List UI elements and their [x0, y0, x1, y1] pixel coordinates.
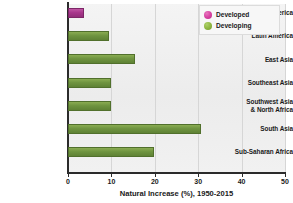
category-label: Southwest Asia& North Africa [229, 98, 293, 113]
category-label: East Asia [229, 56, 293, 63]
tick-mark-10 [111, 174, 112, 177]
legend-label-developed: Developed [216, 11, 249, 18]
legend-swatch-developed-icon [204, 11, 212, 19]
x-axis-line [67, 172, 286, 174]
legend-label-developing: Developing [216, 22, 252, 29]
bar-sub-saharan-africa[interactable] [68, 147, 154, 157]
tick-mark-0 [68, 174, 69, 177]
legend: Developed Developing [199, 5, 280, 35]
bar-southeast-asia[interactable] [68, 78, 111, 88]
category-label: Sub-Saharan Africa [229, 148, 293, 155]
x-tick-label-0: 0 [66, 178, 70, 185]
category-label: Southeast Asia [229, 79, 293, 86]
legend-item-developed[interactable]: Developed [204, 9, 275, 20]
legend-swatch-developing-icon [204, 22, 212, 30]
tick-mark-50 [285, 174, 286, 177]
tick-mark-40 [242, 174, 243, 177]
bar-southwest-asia[interactable] [68, 101, 111, 111]
x-tick-label-50: 50 [281, 178, 289, 185]
tick-mark-30 [198, 174, 199, 177]
category-label: South Asia [229, 125, 293, 132]
x-tick-label-10: 10 [107, 178, 115, 185]
tick-mark-20 [155, 174, 156, 177]
bar-south-asia[interactable] [68, 124, 201, 134]
x-axis-title: Natural Increase (%), 1950-2015 [68, 189, 285, 198]
natural-increase-bar-chart: North AmericaLatin AmericaEast AsiaSouth… [0, 0, 293, 203]
x-tick-label-40: 40 [238, 178, 246, 185]
legend-item-developing[interactable]: Developing [204, 20, 275, 31]
gridline-50 [285, 4, 286, 172]
bar-east-asia[interactable] [68, 54, 135, 64]
x-tick-label-20: 20 [151, 178, 159, 185]
bar-north-america[interactable] [68, 8, 84, 18]
bar-latin-america[interactable] [68, 31, 109, 41]
x-tick-label-30: 30 [194, 178, 202, 185]
